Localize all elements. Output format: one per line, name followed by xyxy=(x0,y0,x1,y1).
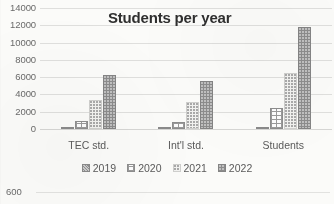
plot-area xyxy=(40,8,332,129)
legend-item-2020[interactable]: 2020 xyxy=(127,163,161,174)
legend-swatch-icon xyxy=(82,164,90,172)
legend-label: 2019 xyxy=(93,163,116,174)
legend-item-2021[interactable]: 2021 xyxy=(173,163,207,174)
bar-2022-tec-std[interactable] xyxy=(103,75,116,129)
bar-2020-int-l-std[interactable] xyxy=(172,122,185,129)
y-axis-tick-label: 6000 xyxy=(15,72,36,82)
bar-2019-tec-std[interactable] xyxy=(61,127,74,129)
legend-label: 2020 xyxy=(138,163,161,174)
x-axis-category-label: Students xyxy=(235,136,332,154)
bar-2021-tec-std[interactable] xyxy=(89,100,102,129)
next-chart-y-tick: 600 xyxy=(6,187,22,197)
bar-2019-int-l-std[interactable] xyxy=(158,127,171,129)
gridline xyxy=(40,129,332,130)
bar-2020-tec-std[interactable] xyxy=(75,121,88,129)
bar-2019-students[interactable] xyxy=(256,127,269,129)
next-chart-gridline xyxy=(36,192,330,193)
bar-group xyxy=(137,8,234,129)
legend-label: 2021 xyxy=(184,163,207,174)
legend-label: 2022 xyxy=(229,163,252,174)
legend-swatch-icon xyxy=(173,164,181,172)
bar-2022-int-l-std[interactable] xyxy=(200,81,213,129)
bar-groups xyxy=(40,8,332,129)
chart-title: Students per year xyxy=(108,9,231,26)
legend-swatch-icon xyxy=(127,164,135,172)
legend-item-2022[interactable]: 2022 xyxy=(218,163,252,174)
bar-2021-students[interactable] xyxy=(284,73,297,129)
y-axis-tick-label: 14000 xyxy=(10,3,36,13)
chart-container: Students per year 1400012000100008000600… xyxy=(0,0,334,182)
x-axis-category-label: Int'l std. xyxy=(137,136,234,154)
y-axis: 14000120001000080006000400020000 xyxy=(0,0,40,136)
y-axis-tick-label: 8000 xyxy=(15,55,36,65)
y-axis-tick-label: 10000 xyxy=(10,38,36,48)
x-axis-category-label: TEC std. xyxy=(40,136,137,154)
x-axis-labels: TEC std.Int'l std.Students xyxy=(40,136,332,154)
bar-group xyxy=(235,8,332,129)
legend-swatch-icon xyxy=(218,164,226,172)
bar-2022-students[interactable] xyxy=(298,27,311,129)
legend-item-2019[interactable]: 2019 xyxy=(82,163,116,174)
bar-2021-int-l-std[interactable] xyxy=(186,102,199,129)
next-chart-fragment: 600 xyxy=(0,182,334,204)
chart-legend: 2019202020212022 xyxy=(0,160,334,176)
bar-group xyxy=(40,8,137,129)
y-axis-tick-label: 4000 xyxy=(15,90,36,100)
y-axis-tick-label: 12000 xyxy=(10,21,36,31)
y-axis-tick-label: 0 xyxy=(31,124,36,134)
bar-2020-students[interactable] xyxy=(270,108,283,129)
y-axis-tick-label: 2000 xyxy=(15,107,36,117)
